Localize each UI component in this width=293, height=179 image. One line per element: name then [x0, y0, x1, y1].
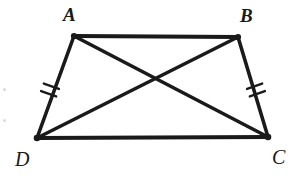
- side-ab: [74, 36, 238, 37]
- scan-artifact-upper: [3, 88, 6, 91]
- vertex-point-d: [34, 135, 41, 142]
- vertex-point-c: [265, 134, 272, 141]
- trapezoid-diagram: [0, 0, 293, 179]
- scan-artifact-lower: [3, 119, 6, 122]
- congruence-ticks-bc: [247, 84, 265, 97]
- vertex-label-d: D: [15, 149, 29, 169]
- vertex-point-a: [71, 33, 77, 39]
- diagonal-ac: [74, 36, 268, 137]
- vertex-point-b: [235, 34, 241, 40]
- vertex-label-b: B: [240, 6, 253, 25]
- vertex-label-a: A: [63, 5, 76, 24]
- side-cd: [37, 137, 268, 138]
- vertex-label-c: C: [272, 147, 285, 167]
- geometry-figure-canvas: A B C D: [0, 0, 293, 179]
